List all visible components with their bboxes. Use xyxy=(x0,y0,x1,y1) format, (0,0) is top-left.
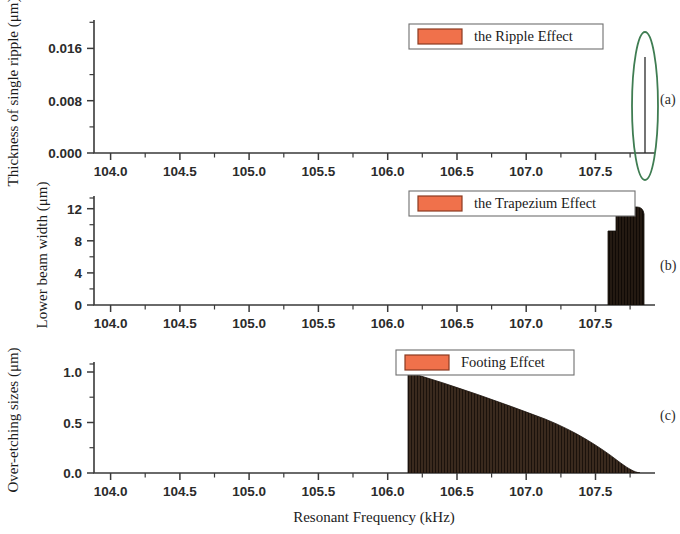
panel-a-legend: the Ripple Effect xyxy=(409,24,603,49)
panel-c-ytick-0: 0.0 xyxy=(63,466,82,481)
panel-c-xtick-7: 107.5 xyxy=(579,484,613,499)
x-axis-title: Resonant Frequency (kHz) xyxy=(293,509,455,526)
panel-tag-a: (a) xyxy=(660,92,676,108)
panel-b-xtick-0: 104.0 xyxy=(94,316,128,331)
panel-b-legend: the Trapezium Effect xyxy=(409,191,635,216)
panel-a-ytick-1: 0.008 xyxy=(48,94,82,109)
panel-a-xtick-3: 105.5 xyxy=(302,164,336,179)
panel-a-xtick-4: 106.0 xyxy=(371,164,405,179)
panel-b-xtick-6: 107.0 xyxy=(509,316,543,331)
panel-a-y-axis-title: Thickness of single ripple (μm) xyxy=(5,0,22,186)
panel-c-xtick-2: 105.0 xyxy=(232,484,266,499)
figure-root: 0.000 0.008 0.016 xyxy=(0,0,680,534)
panel-a-xtick-5: 106.5 xyxy=(440,164,474,179)
legend-label-footing-effect: Footing Effcet xyxy=(461,354,545,370)
panel-b-ytick-1: 4 xyxy=(74,266,82,281)
legend-swatch-ripple-effect xyxy=(418,29,462,44)
legend-swatch-trapezium-effect xyxy=(418,196,462,211)
panel-a: 0.000 0.008 0.016 xyxy=(48,20,676,180)
panel-b-xtick-5: 106.5 xyxy=(440,316,474,331)
panel-b-xtick-4: 106.0 xyxy=(371,316,405,331)
legend-swatch-footing-effect xyxy=(405,355,449,370)
panel-a-xtick-7: 107.5 xyxy=(579,164,613,179)
panel-a-xtick-1: 104.5 xyxy=(163,164,197,179)
legend-label-trapezium-effect: the Trapezium Effect xyxy=(474,195,596,211)
panel-a-xtick-6: 107.0 xyxy=(509,164,543,179)
panel-b: 0 4 8 12 104.0 xyxy=(67,191,677,331)
multi-panel-chart: 0.000 0.008 0.016 xyxy=(0,0,680,534)
panel-tag-b: (b) xyxy=(660,258,677,274)
panel-a-ytick-2: 0.016 xyxy=(48,41,82,56)
panel-c-y-ticks xyxy=(87,364,94,473)
panel-a-ytick-0: 0.000 xyxy=(48,146,82,161)
panel-c-y-axis-title: Over-etching sizes (μm) xyxy=(5,347,22,492)
panel-a-y-ticks xyxy=(87,22,94,153)
legend-label-ripple-effect: the Ripple Effect xyxy=(474,28,573,44)
panel-c-xtick-3: 105.5 xyxy=(302,484,336,499)
panel-a-xtick-0: 104.0 xyxy=(94,164,128,179)
panel-b-x-ticks xyxy=(111,305,631,312)
panel-tag-c: (c) xyxy=(660,408,676,424)
panel-c-xtick-1: 104.5 xyxy=(163,484,197,499)
panel-b-y-ticks xyxy=(87,198,94,305)
panel-c-legend: Footing Effcet xyxy=(396,350,574,375)
panel-b-y-axis-title: Lower beam width (μm) xyxy=(34,182,51,329)
panel-b-xtick-3: 105.5 xyxy=(302,316,336,331)
panel-c-xtick-6: 107.0 xyxy=(509,484,543,499)
panel-b-xtick-7: 107.5 xyxy=(579,316,613,331)
panel-c-xtick-0: 104.0 xyxy=(94,484,128,499)
panel-b-ytick-0: 0 xyxy=(74,298,82,313)
panel-c: 0.0 0.5 1.0 104.0 xyxy=(63,350,676,499)
panel-c-ytick-1: 0.5 xyxy=(63,416,82,431)
panel-b-xtick-2: 105.0 xyxy=(232,316,266,331)
panel-a-xtick-2: 105.0 xyxy=(232,164,266,179)
panel-b-ytick-3: 12 xyxy=(67,202,82,217)
panel-b-data-trapezium-effect xyxy=(608,207,644,305)
panel-b-xtick-1: 104.5 xyxy=(163,316,197,331)
panel-c-ytick-2: 1.0 xyxy=(63,365,82,380)
panel-c-x-ticks xyxy=(111,473,631,480)
panel-a-x-ticks xyxy=(111,153,631,160)
panel-c-xtick-4: 106.0 xyxy=(371,484,405,499)
panel-b-ytick-2: 8 xyxy=(74,234,82,249)
panel-c-xtick-5: 106.5 xyxy=(440,484,474,499)
panel-c-data-footing-effect xyxy=(408,372,640,473)
